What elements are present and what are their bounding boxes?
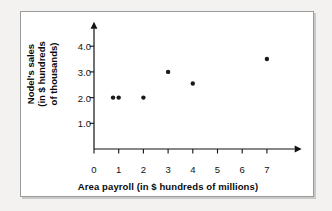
y-tick-label: 4.0: [78, 41, 91, 52]
axis-ticks: [90, 46, 267, 153]
x-tick-label: 3: [165, 164, 170, 175]
x-tick-label: 5: [215, 164, 220, 175]
y-axis-title-line-1: Nodel's sales: [25, 44, 37, 104]
x-tick-label: 0: [91, 164, 96, 175]
axes: [91, 22, 302, 153]
x-tick-label: 4: [190, 164, 195, 175]
data-point: [265, 57, 269, 61]
y-axis-title-line-2: (in $ hundreds: [36, 41, 48, 106]
y-tick-label: 1.0: [78, 118, 91, 129]
x-tick-label: 2: [141, 164, 146, 175]
figure-panel: 01234567 1.02.03.04.0 Area payroll (in $…: [20, 11, 314, 197]
data-point: [191, 81, 195, 85]
y-axis-title: Nodel's sales (in $ hundreds of thousand…: [20, 9, 64, 139]
y-tick-label: 2.0: [78, 92, 91, 103]
data-point: [141, 95, 145, 99]
data-point: [166, 70, 170, 74]
y-tick-label: 3.0: [78, 66, 91, 77]
y-axis-title-line-3: of thousands): [48, 43, 60, 106]
scatter-plot: 01234567 1.02.03.04.0 Area payroll (in $…: [21, 12, 315, 198]
data-point: [111, 95, 115, 99]
x-axis-title: Area payroll (in $ hundreds of millions): [21, 181, 315, 192]
data-point: [117, 95, 121, 99]
x-tick-label: 1: [116, 164, 121, 175]
x-tick-label: 7: [264, 164, 269, 175]
data-points: [111, 57, 269, 100]
x-tick-label: 6: [240, 164, 245, 175]
